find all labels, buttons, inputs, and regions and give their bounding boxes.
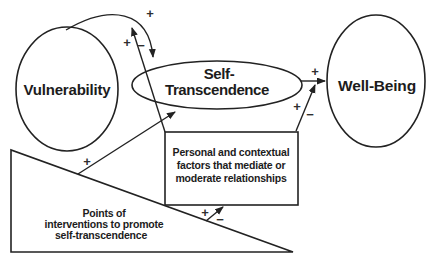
sign-st-wellbeing-plus: + bbox=[311, 64, 319, 79]
sign-factors-vst-plus: + bbox=[123, 35, 131, 50]
diagram-figure: Vulnerability Self- Transcendence Well-B… bbox=[0, 0, 431, 265]
sign-interventions-st-plus: + bbox=[83, 154, 91, 169]
factors-label-line1: Personal and contextual bbox=[173, 146, 290, 158]
factors-label-line3: moderate relationships bbox=[175, 172, 286, 184]
model-diagram-svg: Vulnerability Self- Transcendence Well-B… bbox=[0, 0, 431, 265]
factors-label-line2: factors that mediate or bbox=[177, 159, 286, 171]
sign-interventions-factors-minus: − bbox=[216, 212, 224, 227]
sign-factors-stwb-plus: + bbox=[293, 99, 301, 114]
vulnerability-label: Vulnerability bbox=[24, 81, 112, 98]
self-transcendence-label-line1: Self- bbox=[204, 65, 235, 82]
sign-vulnerability-st-plus: + bbox=[146, 6, 154, 21]
self-transcendence-label-line2: Transcendence bbox=[165, 81, 269, 98]
interventions-label-line3: self-transcendence bbox=[55, 229, 147, 241]
sign-factors-stwb-minus: − bbox=[306, 107, 314, 122]
sign-interventions-factors-plus: + bbox=[201, 205, 209, 220]
sign-factors-vst-minus: − bbox=[137, 38, 145, 53]
well-being-label: Well-Being bbox=[338, 77, 416, 94]
